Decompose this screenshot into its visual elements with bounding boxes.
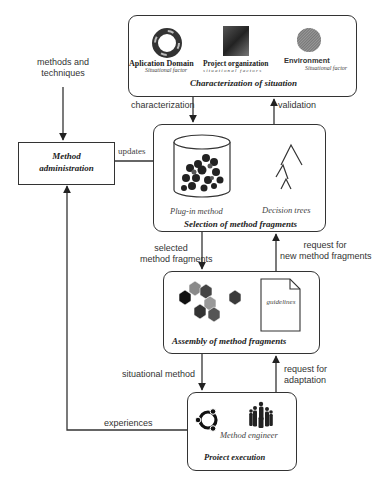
method-administration-box: Method administration [18, 142, 115, 185]
method-engineers-icon [248, 401, 274, 429]
methods-techniques-line1: methods and [33, 57, 93, 68]
globe-icon [295, 26, 323, 54]
method-administration-line1: Method [19, 151, 114, 161]
request-new-line1: request for [280, 240, 370, 251]
request-adaptation-line1: request for [284, 364, 327, 375]
characterization-arrow-label: characterization [131, 100, 195, 111]
selection-box: Plug-in method Decision trees Selection … [153, 124, 326, 232]
factor-project-organization-name: Project organization [203, 59, 268, 68]
updates-arrow-label: updates [118, 146, 146, 157]
decision-trees-label: Decision trees [262, 205, 311, 215]
request-adaptation-line2: adaptation [284, 375, 327, 386]
factor-environment-sub: Situational factor [305, 65, 347, 71]
decision-tree-icon [274, 143, 310, 193]
plugin-method-label: Plug-in method [170, 206, 223, 216]
assembly-box: guidelines Assembly of method fragments [163, 271, 320, 354]
factor-project-organization-sub: situational factors [203, 68, 262, 73]
method-fragments-hexagons-icon [172, 280, 252, 326]
characterization-box: Aplication Domain Situational factor Pro… [128, 15, 357, 97]
selection-title: Selection of method fragments [154, 219, 327, 229]
situational-method-label: situational method [122, 369, 195, 380]
project-execution-title: Proiect execution [204, 452, 265, 462]
request-adaptation-label: request for adaptation [284, 364, 327, 386]
guidelines-label: guidelines [262, 298, 300, 306]
experiences-label: experiences [104, 418, 153, 429]
lifebuoy-icon [152, 28, 182, 58]
project-execution-box: Method engineer Proiect execution [187, 392, 297, 471]
methods-techniques-line2: techniques [33, 68, 93, 79]
selected-fragments-line2: method fragments [140, 254, 202, 265]
assembly-title: Assembly of method fragments [172, 336, 286, 346]
methods-techniques-label: methods and techniques [33, 57, 93, 79]
request-new-fragments-label: request for new method fragments [280, 240, 370, 262]
method-administration-line2: administration [19, 163, 114, 173]
team-photo-icon [223, 26, 249, 56]
factor-application-domain-sub: Situational factor [145, 67, 187, 73]
characterization-title: Characterization of situation [129, 78, 358, 88]
validation-arrow-label: validation [278, 100, 316, 111]
request-new-line2: new method fragments [280, 251, 370, 262]
method-engineer-label: Method engineer [220, 430, 278, 440]
selected-fragments-line1: selected [140, 243, 202, 254]
plugin-database-icon [172, 134, 232, 200]
ubuntu-logo-icon [195, 407, 221, 433]
factor-environment-name: Environment [284, 56, 330, 65]
selected-fragments-label: selected method fragments [140, 243, 202, 265]
